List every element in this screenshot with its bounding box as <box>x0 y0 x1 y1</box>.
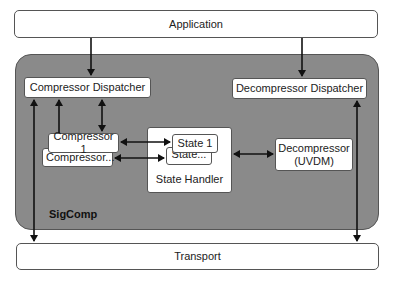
transport-layer: Transport <box>16 243 379 270</box>
decompressor-uvdm: Decompressor (UVDM) <box>275 138 353 171</box>
compressor-dispatcher: Compressor Dispatcher <box>24 77 151 98</box>
application-label: Application <box>169 18 223 31</box>
sigcomp-label: SigComp <box>49 208 97 220</box>
state-1: State 1 <box>172 134 218 153</box>
application-layer: Application <box>14 10 378 38</box>
decompressor-dispatcher: Decompressor Dispatcher <box>232 78 367 99</box>
transport-label: Transport <box>174 250 221 263</box>
compressor-1: Compressor 1 <box>48 133 119 153</box>
